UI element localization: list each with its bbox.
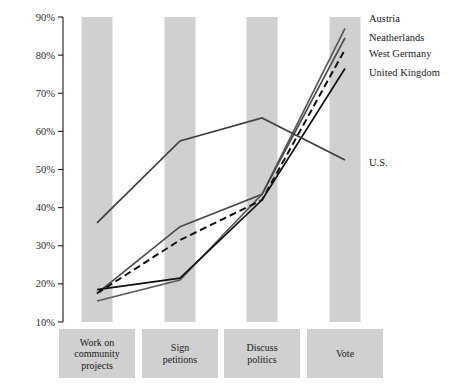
y-axis-tick-label: 70% xyxy=(36,88,56,99)
y-axis-tick-label: 10% xyxy=(36,317,56,328)
legend-label-austria: Austria xyxy=(369,13,400,24)
line-chart: 90%80%70%60%50%40%30%20%10%Work oncommun… xyxy=(0,0,451,384)
series-line-west-germany xyxy=(97,49,345,293)
category-label-line: Vote xyxy=(336,348,355,359)
category-label-line: Discuss xyxy=(246,342,277,353)
category-label-line: petitions xyxy=(163,354,198,365)
y-axis-tick-label: 40% xyxy=(36,202,56,213)
category-band xyxy=(330,17,361,322)
category-label-line: Sign xyxy=(171,342,189,353)
category-band xyxy=(165,17,196,322)
series-line-u-s xyxy=(97,118,345,223)
category-band xyxy=(247,17,278,322)
series-line-austria xyxy=(97,28,345,301)
category-label: Vote xyxy=(336,348,355,359)
y-axis-tick-label: 50% xyxy=(36,164,56,175)
legend-label-us: U.S. xyxy=(369,157,388,168)
y-axis-tick-label: 90% xyxy=(36,12,56,23)
y-axis-tick-label: 30% xyxy=(36,240,56,251)
y-axis-tick-label: 60% xyxy=(36,126,56,137)
category-label-line: politics xyxy=(247,354,277,365)
category-band xyxy=(82,17,113,322)
category-label: Discusspolitics xyxy=(246,342,277,365)
category-label-line: projects xyxy=(81,360,113,371)
legend-label-neatherlands: Neatherlands xyxy=(369,32,424,43)
category-label-line: community xyxy=(74,348,120,359)
y-axis-tick-label: 20% xyxy=(36,278,56,289)
legend-label-united-kingdom: United Kingdom xyxy=(369,67,440,78)
chart-container: 90%80%70%60%50%40%30%20%10%Work oncommun… xyxy=(0,0,451,384)
series-line-neatherlands xyxy=(97,38,345,293)
legend-label-west-germany: West Germany xyxy=(369,48,432,59)
y-axis-tick-label: 80% xyxy=(36,50,56,61)
category-label-line: Work on xyxy=(80,337,114,348)
